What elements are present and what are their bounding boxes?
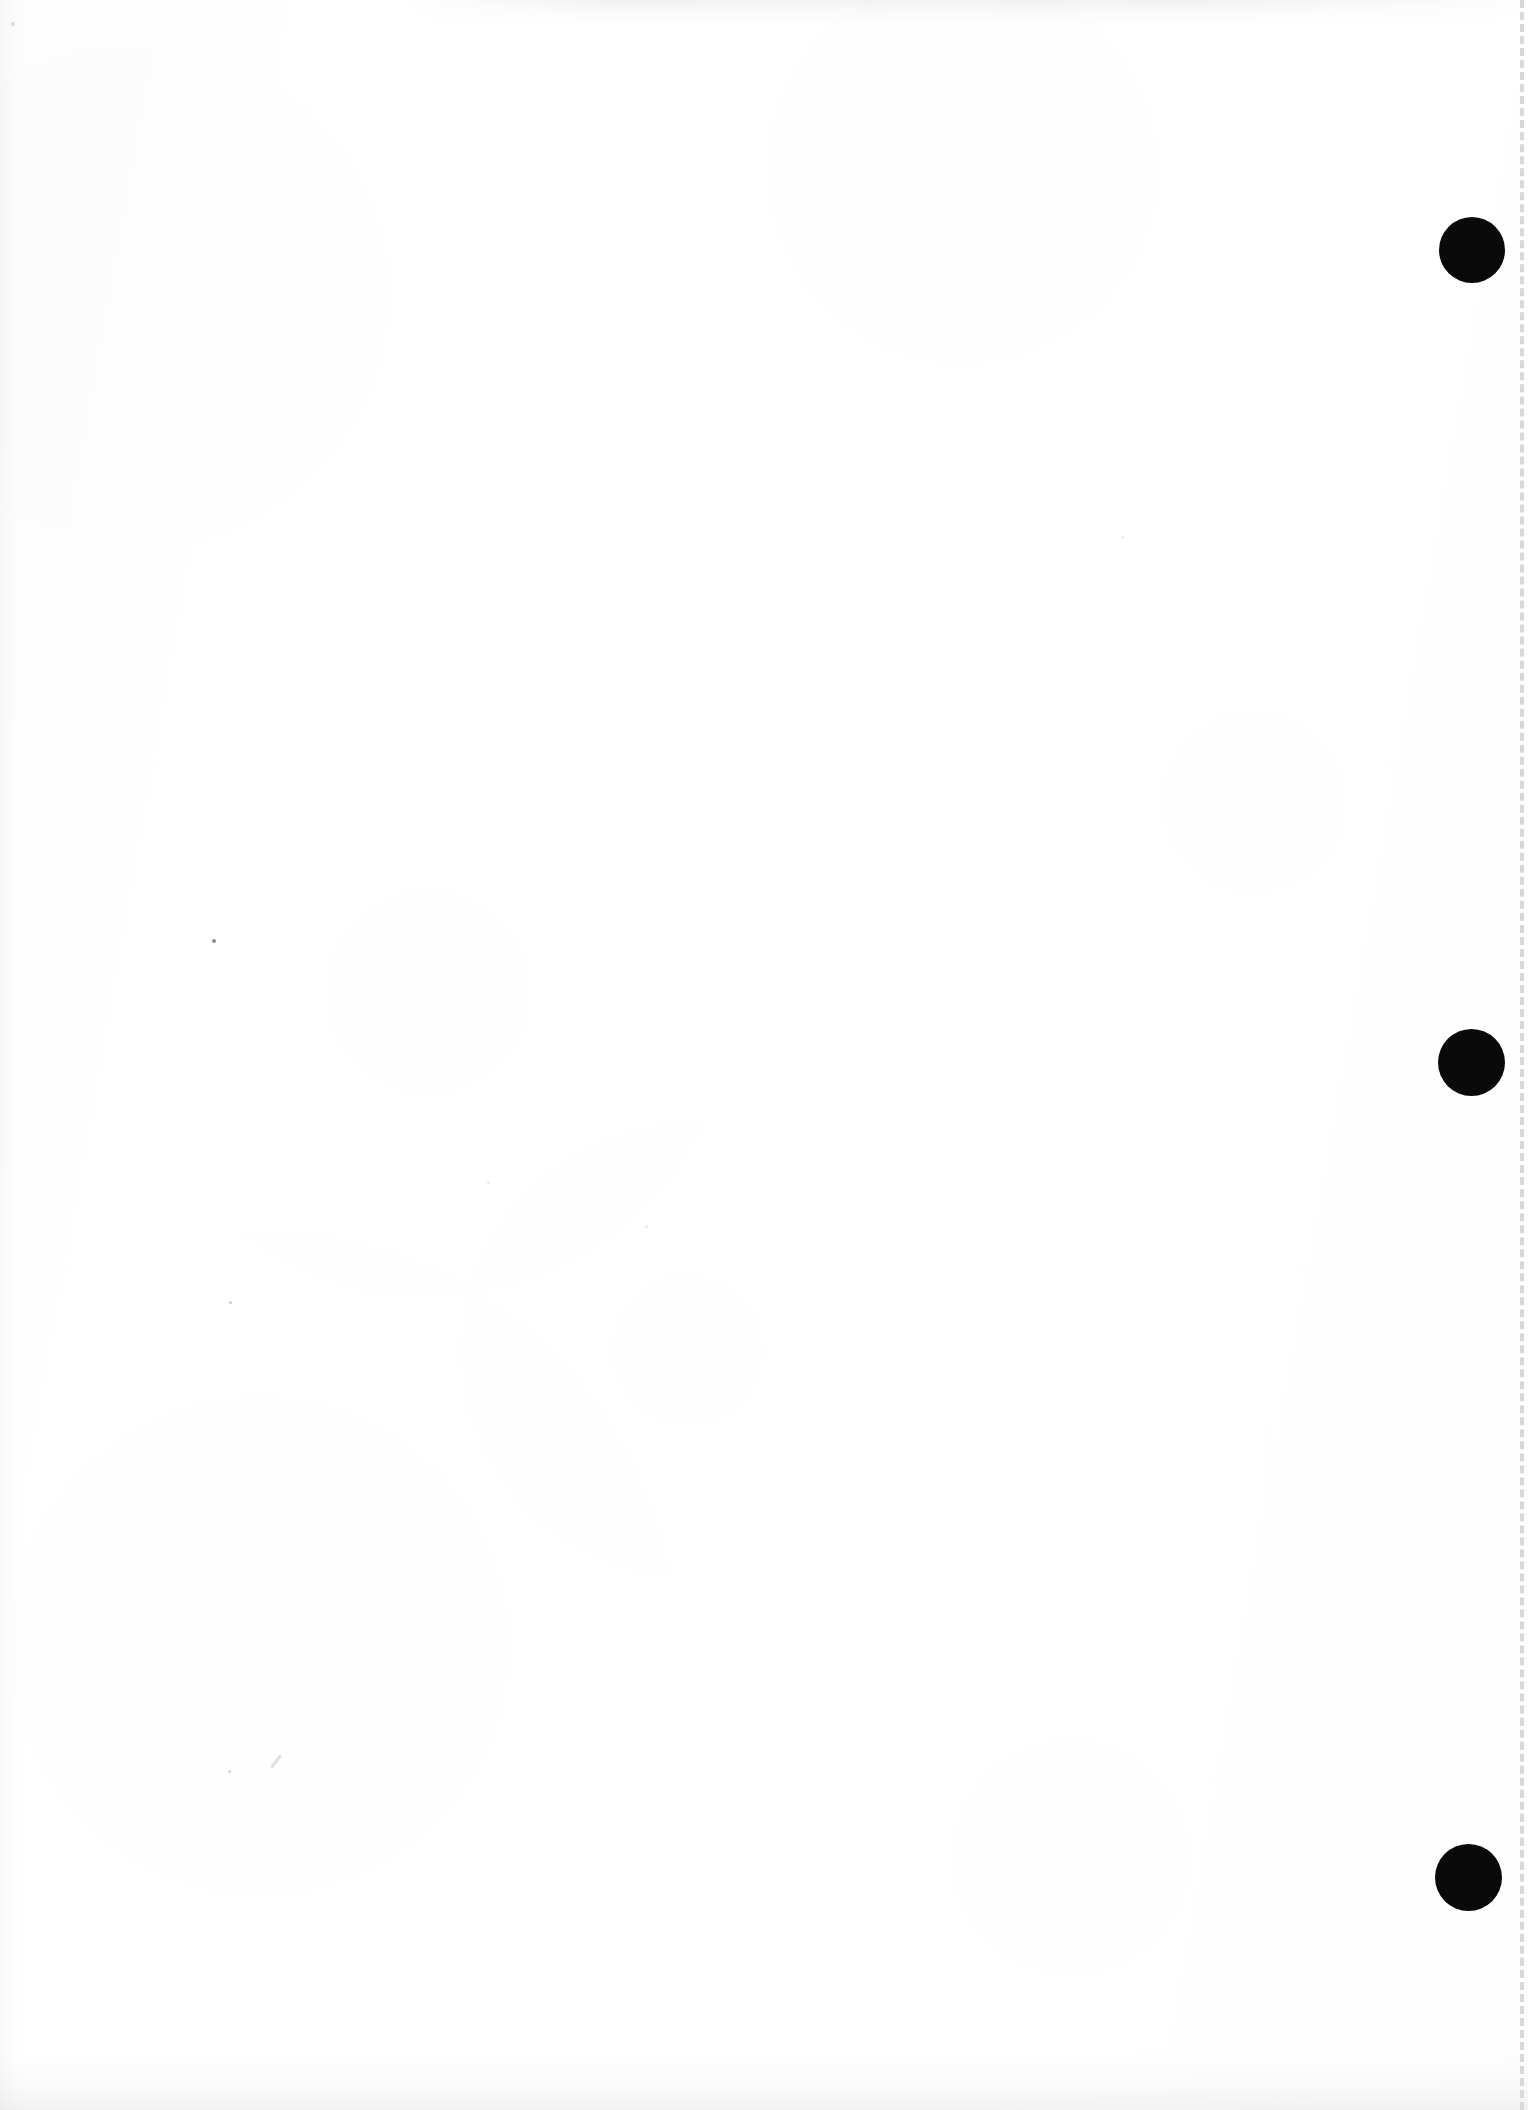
- paper-background: [0, 0, 1528, 2110]
- registration-dot-bottom: [1435, 1844, 1502, 1911]
- registration-dot-top: [1439, 217, 1505, 283]
- registration-dot-middle: [1438, 1029, 1505, 1096]
- scanned-page: [0, 0, 1528, 2110]
